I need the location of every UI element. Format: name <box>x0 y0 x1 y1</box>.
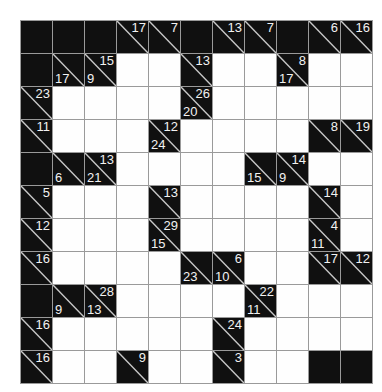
entry-cell[interactable] <box>181 318 212 350</box>
entry-cell[interactable] <box>53 219 84 251</box>
entry-cell[interactable] <box>149 252 180 284</box>
entry-cell[interactable] <box>341 54 372 86</box>
clue-cell: 1321 <box>85 153 116 185</box>
clue-down-value: 24 <box>228 318 242 332</box>
entry-cell[interactable] <box>181 120 212 152</box>
entry-cell[interactable] <box>341 318 372 350</box>
clue-down-value: 14 <box>324 186 338 200</box>
clue-down-value: 12 <box>36 219 50 233</box>
entry-cell[interactable] <box>85 120 116 152</box>
clue-down-value: 7 <box>267 21 274 35</box>
block-cell <box>85 21 116 53</box>
clue-cell: 9 <box>117 351 148 383</box>
entry-cell[interactable] <box>245 318 276 350</box>
entry-cell[interactable] <box>117 318 148 350</box>
entry-cell[interactable] <box>245 252 276 284</box>
entry-cell[interactable] <box>213 120 244 152</box>
clue-cell: 2813 <box>85 285 116 317</box>
entry-cell[interactable] <box>85 318 116 350</box>
entry-cell[interactable] <box>213 54 244 86</box>
entry-cell[interactable] <box>85 252 116 284</box>
entry-cell[interactable] <box>53 120 84 152</box>
entry-cell[interactable] <box>245 87 276 119</box>
clue-down-value: 5 <box>43 186 50 200</box>
entry-cell[interactable] <box>85 186 116 218</box>
entry-cell[interactable] <box>213 87 244 119</box>
entry-cell[interactable] <box>85 351 116 383</box>
entry-cell[interactable] <box>117 252 148 284</box>
entry-cell[interactable] <box>117 120 148 152</box>
entry-cell[interactable] <box>117 87 148 119</box>
entry-cell[interactable] <box>181 153 212 185</box>
entry-cell[interactable] <box>341 219 372 251</box>
entry-cell[interactable] <box>309 54 340 86</box>
entry-cell[interactable] <box>213 186 244 218</box>
entry-cell[interactable] <box>117 285 148 317</box>
entry-cell[interactable] <box>341 87 372 119</box>
entry-cell[interactable] <box>85 219 116 251</box>
entry-cell[interactable] <box>341 153 372 185</box>
clue-down-value: 16 <box>36 318 50 332</box>
clue-cell: 24 <box>213 318 244 350</box>
entry-cell[interactable] <box>309 285 340 317</box>
clue-down-value: 16 <box>356 21 370 35</box>
clue-cell: 817 <box>277 54 308 86</box>
entry-cell[interactable] <box>277 219 308 251</box>
entry-cell[interactable] <box>245 351 276 383</box>
entry-cell[interactable] <box>149 54 180 86</box>
entry-cell[interactable] <box>53 318 84 350</box>
entry-cell[interactable] <box>181 186 212 218</box>
entry-cell[interactable] <box>53 186 84 218</box>
clue-across-value: 10 <box>215 269 229 284</box>
clue-cell: 19 <box>341 120 372 152</box>
entry-cell[interactable] <box>213 153 244 185</box>
clue-across-value: 17 <box>55 71 69 86</box>
entry-cell[interactable] <box>181 351 212 383</box>
entry-cell[interactable] <box>149 87 180 119</box>
clue-cell: 16 <box>341 21 372 53</box>
clue-cell: 149 <box>277 153 308 185</box>
entry-cell[interactable] <box>53 87 84 119</box>
kakuro-grid[interactable]: 1771376161715913817232620111224819613211… <box>20 20 373 384</box>
clue-down-value: 4 <box>331 219 338 233</box>
entry-cell[interactable] <box>341 186 372 218</box>
clue-down-value: 15 <box>100 54 114 68</box>
entry-cell[interactable] <box>341 285 372 317</box>
entry-cell[interactable] <box>213 285 244 317</box>
entry-cell[interactable] <box>245 120 276 152</box>
entry-cell[interactable] <box>53 252 84 284</box>
clue-across-value: 21 <box>87 170 101 185</box>
entry-cell[interactable] <box>277 120 308 152</box>
entry-cell[interactable] <box>149 153 180 185</box>
entry-cell[interactable] <box>181 285 212 317</box>
clue-across-value: 9 <box>87 71 94 86</box>
kakuro-puzzle-page: 1771376161715913817232620111224819613211… <box>0 0 382 392</box>
entry-cell[interactable] <box>117 153 148 185</box>
entry-cell[interactable] <box>85 87 116 119</box>
entry-cell[interactable] <box>149 285 180 317</box>
clue-cell: 7 <box>149 21 180 53</box>
entry-cell[interactable] <box>245 54 276 86</box>
entry-cell[interactable] <box>117 186 148 218</box>
entry-cell[interactable] <box>117 219 148 251</box>
entry-cell[interactable] <box>53 351 84 383</box>
entry-cell[interactable] <box>117 54 148 86</box>
entry-cell[interactable] <box>277 351 308 383</box>
entry-cell[interactable] <box>213 219 244 251</box>
entry-cell[interactable] <box>277 285 308 317</box>
entry-cell[interactable] <box>309 153 340 185</box>
clue-cell: 16 <box>21 252 52 284</box>
clue-down-value: 13 <box>196 54 210 68</box>
entry-cell[interactable] <box>149 351 180 383</box>
entry-cell[interactable] <box>277 318 308 350</box>
entry-cell[interactable] <box>277 87 308 119</box>
entry-cell[interactable] <box>245 186 276 218</box>
entry-cell[interactable] <box>245 219 276 251</box>
entry-cell[interactable] <box>309 318 340 350</box>
entry-cell[interactable] <box>277 252 308 284</box>
entry-cell[interactable] <box>149 318 180 350</box>
entry-cell[interactable] <box>277 186 308 218</box>
entry-cell[interactable] <box>309 87 340 119</box>
clue-cell: 610 <box>213 252 244 284</box>
entry-cell[interactable] <box>181 219 212 251</box>
